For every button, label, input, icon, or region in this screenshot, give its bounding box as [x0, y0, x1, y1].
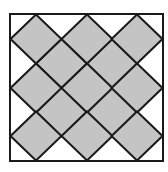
diamond-group	[11, 15, 163, 161]
lattice-diagram	[0, 0, 168, 172]
